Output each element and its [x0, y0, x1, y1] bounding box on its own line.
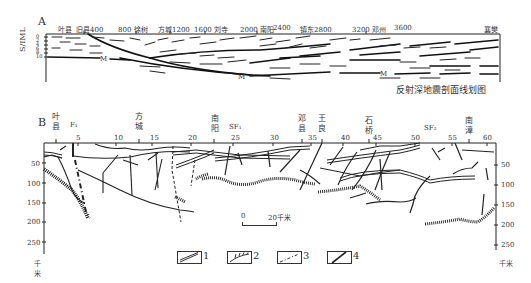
legend-item-2: 2	[227, 250, 253, 269]
legend-item-3: 3	[277, 250, 303, 269]
solid-fault-icon	[327, 251, 353, 265]
double-line-reflector-icon	[177, 251, 203, 265]
scale-start: 0	[241, 212, 245, 220]
scale-end: 20千米	[268, 212, 291, 222]
hatched-boundary-icon	[227, 251, 253, 265]
dash-dot-fault-icon	[277, 251, 303, 265]
scale-bar: 0 20千米	[238, 212, 318, 232]
legend-item-4: 4	[327, 250, 353, 269]
legend-item-1: 1	[177, 250, 203, 269]
legend: 1 2 3 4	[170, 250, 390, 266]
panel-b-profile	[0, 0, 531, 283]
